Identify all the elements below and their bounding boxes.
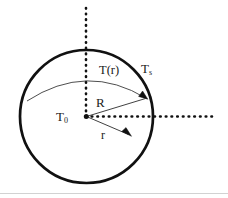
- surface-arrowhead: [139, 91, 148, 99]
- label-surface-temperature-subscript: s: [149, 68, 152, 77]
- center-point-marker: [84, 114, 89, 119]
- diagram-canvas: [0, 0, 228, 198]
- label-center-temperature: T0: [56, 110, 68, 125]
- radius-r-arrowhead: [122, 128, 132, 137]
- bottom-divider: [0, 193, 228, 194]
- label-temperature-profile: T(r): [99, 64, 119, 77]
- isotherm-arc: [27, 81, 147, 101]
- label-center-temperature-subscript: 0: [64, 116, 68, 125]
- label-outer-radius: R: [96, 96, 105, 109]
- label-surface-temperature-base: T: [141, 61, 149, 76]
- label-radial-coordinate: r: [101, 129, 105, 141]
- label-center-temperature-base: T: [56, 109, 64, 124]
- sphere-temperature-diagram: T(r) Ts T0 R r: [0, 0, 228, 198]
- label-surface-temperature: Ts: [141, 62, 152, 77]
